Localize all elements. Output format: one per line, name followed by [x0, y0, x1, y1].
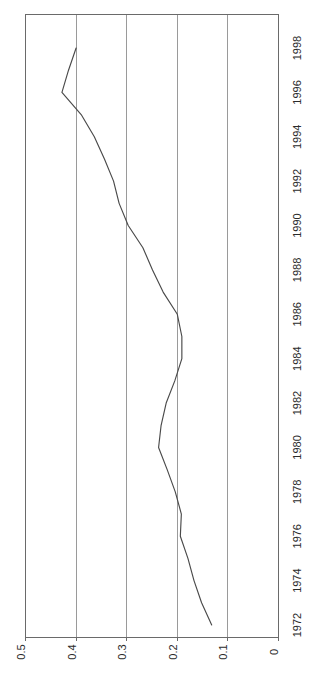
year-tick-label-1996: 1996 [291, 80, 303, 104]
year-tick-label-1988: 1988 [291, 258, 303, 282]
year-tick-label-1990: 1990 [291, 213, 303, 237]
line-chart: 0.50.40.30.20.10 19981996199419921990198… [0, 0, 325, 681]
value-tick-label-0.3: 0.3 [116, 644, 128, 659]
year-tick-label-1980: 1980 [291, 435, 303, 459]
year-tick-label-1992: 1992 [291, 169, 303, 193]
value-tick-label-0: 0 [268, 649, 280, 655]
value-tick-label-0.5: 0.5 [15, 644, 27, 659]
year-tick-label-1994: 1994 [291, 125, 303, 149]
year-tick-label-1998: 1998 [291, 36, 303, 60]
year-tick-label-1984: 1984 [291, 346, 303, 370]
value-tick-label-0.2: 0.2 [167, 644, 179, 659]
year-tick-label-1976: 1976 [291, 524, 303, 548]
chart-background [0, 0, 325, 681]
year-tick-label-1972: 1972 [291, 613, 303, 637]
chart-container: 0.50.40.30.20.10 19981996199419921990198… [0, 0, 325, 681]
year-tick-label-1982: 1982 [291, 391, 303, 415]
value-tick-label-0.4: 0.4 [66, 644, 78, 659]
value-tick-label-0.1: 0.1 [217, 644, 229, 659]
year-tick-label-1978: 1978 [291, 480, 303, 504]
year-tick-label-1974: 1974 [291, 568, 303, 592]
year-tick-label-1986: 1986 [291, 302, 303, 326]
